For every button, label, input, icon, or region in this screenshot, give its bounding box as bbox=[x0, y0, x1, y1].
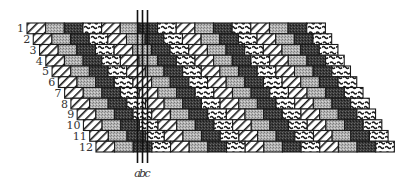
brick-cell-gray bbox=[120, 23, 139, 34]
brick-cell-dark bbox=[183, 98, 202, 109]
brick-cell-gray bbox=[46, 23, 65, 34]
brick-cell-dark bbox=[338, 109, 357, 120]
brick-cell-gray bbox=[258, 131, 277, 142]
brick-row bbox=[71, 98, 369, 109]
brick-cell-dark bbox=[294, 34, 313, 45]
brick-cell-gray bbox=[320, 109, 339, 120]
brick-cell-wave bbox=[201, 98, 220, 109]
brick-cell-wave bbox=[369, 131, 388, 142]
brick-cell-dark bbox=[257, 98, 276, 109]
brick-row bbox=[27, 23, 325, 34]
brick-cell-gray bbox=[170, 109, 189, 120]
brick-cell-wave bbox=[270, 88, 289, 99]
brick-cell-wave bbox=[251, 55, 270, 66]
brick-cell-wave bbox=[332, 66, 351, 77]
brick-cell-gray bbox=[164, 98, 183, 109]
brick-row bbox=[83, 120, 381, 131]
brick-cell-wave bbox=[227, 141, 246, 152]
brick-cell-dark bbox=[351, 131, 370, 142]
brick-cell-gray bbox=[52, 34, 71, 45]
brick-cell-dark bbox=[313, 66, 332, 77]
brick-cell-hatch bbox=[257, 34, 276, 45]
brick-cell-hatch bbox=[120, 55, 139, 66]
brick-cell-gray bbox=[214, 55, 233, 66]
brick-cell-hatch bbox=[164, 131, 183, 142]
brick-cell-dark bbox=[220, 34, 239, 45]
brick-cell-hatch bbox=[171, 141, 190, 152]
brick-cell-hatch bbox=[239, 131, 258, 142]
brick-cell-wave bbox=[158, 23, 177, 34]
brick-cell-hatch bbox=[108, 34, 127, 45]
brick-cell-gray bbox=[269, 23, 288, 34]
brick-cell-dark bbox=[357, 141, 376, 152]
brick-cell-hatch bbox=[114, 45, 133, 56]
brick-cell-gray bbox=[189, 141, 208, 152]
brick-cell-gray bbox=[177, 120, 196, 131]
brick-cell-gray bbox=[326, 120, 345, 131]
brick-cell-dark bbox=[282, 141, 301, 152]
brick-cell-wave bbox=[363, 120, 382, 131]
brick-cell-wave bbox=[313, 34, 332, 45]
brick-cell-wave bbox=[95, 45, 114, 56]
brick-cell-gray bbox=[288, 55, 307, 66]
brick-cell-dark bbox=[158, 55, 177, 66]
brick-cell-dark bbox=[177, 88, 196, 99]
brick-cell-gray bbox=[295, 66, 314, 77]
brick-cell-gray bbox=[77, 77, 96, 88]
brick-cell-dark bbox=[195, 120, 214, 131]
brick-cell-hatch bbox=[226, 109, 245, 120]
brick-cell-dark bbox=[307, 55, 326, 66]
brick-cell-gray bbox=[183, 131, 202, 142]
brick-cell-gray bbox=[201, 34, 220, 45]
brick-cell-dark bbox=[264, 109, 283, 120]
brick-cell-dark bbox=[77, 45, 96, 56]
brick-cell-wave bbox=[282, 109, 301, 120]
brick-cell-dark bbox=[319, 77, 338, 88]
brick-cell-dark bbox=[114, 109, 133, 120]
brick-cell-wave bbox=[146, 131, 165, 142]
brick-cell-hatch bbox=[96, 141, 115, 152]
brick-cell-wave bbox=[301, 141, 320, 152]
brick-cell-wave bbox=[276, 98, 295, 109]
brick-cell-dark bbox=[214, 23, 233, 34]
brick-cell-wave bbox=[121, 88, 140, 99]
brick-cell-dark bbox=[83, 55, 102, 66]
brick-cell-hatch bbox=[251, 23, 270, 34]
brick-cell-dark bbox=[270, 120, 289, 131]
brick-cell-gray bbox=[232, 88, 251, 99]
brick-cell-wave bbox=[89, 34, 108, 45]
brick-cell-wave bbox=[220, 131, 239, 142]
brick-cell-wave bbox=[264, 77, 283, 88]
brick-cell-hatch bbox=[176, 23, 195, 34]
brick-cell-gray bbox=[152, 77, 171, 88]
brick-cell-dark bbox=[288, 23, 307, 34]
brick-cell-wave bbox=[176, 55, 195, 66]
brick-cell-gray bbox=[64, 55, 83, 66]
brick-cell-dark bbox=[164, 66, 183, 77]
brick-cell-hatch bbox=[102, 23, 121, 34]
brick-cell-hatch bbox=[158, 120, 177, 131]
brick-cell-hatch bbox=[182, 34, 201, 45]
brick-cell-gray bbox=[313, 98, 332, 109]
brick-cell-gray bbox=[71, 66, 90, 77]
brick-cell-gray bbox=[307, 88, 326, 99]
brick-cell-wave bbox=[376, 141, 395, 152]
brick-cell-dark bbox=[345, 120, 364, 131]
brick-cell-dark bbox=[232, 55, 251, 66]
brick-row bbox=[65, 88, 363, 99]
brick-cell-wave bbox=[83, 23, 102, 34]
brick-cell-wave bbox=[108, 66, 127, 77]
brick-cell-hatch bbox=[270, 55, 289, 66]
brick-cell-gray bbox=[251, 120, 270, 131]
brick-cell-gray bbox=[282, 45, 301, 56]
brick-cell-gray bbox=[83, 88, 102, 99]
brick-cell-dark bbox=[89, 66, 108, 77]
brick-cell-hatch bbox=[189, 45, 208, 56]
brick-cell-dark bbox=[102, 88, 121, 99]
brick-cell-wave bbox=[102, 55, 121, 66]
brick-row bbox=[90, 131, 388, 142]
brick-cell-gray bbox=[226, 77, 245, 88]
brick-cell-gray bbox=[301, 77, 320, 88]
brick-cell-hatch bbox=[263, 45, 282, 56]
brick-cell-gray bbox=[264, 141, 283, 152]
